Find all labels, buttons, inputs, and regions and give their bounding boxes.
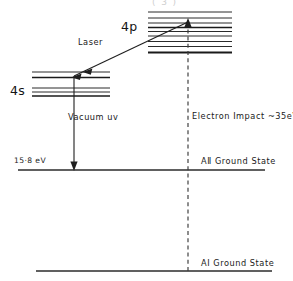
level-group-4p xyxy=(148,12,232,53)
label-4s: 4s xyxy=(10,83,25,98)
label-vacuum-uv: Vacuum uv xyxy=(68,112,118,122)
energy-level-diagram: ( 3 ) xyxy=(0,0,293,281)
label-4p: 4p xyxy=(121,19,138,34)
label-electron-impact: Electron Impact ~35eV xyxy=(192,111,293,121)
diagram-canvas: ( 3 ) xyxy=(0,0,293,281)
top-cut-caption: ( 3 ) xyxy=(152,0,177,7)
level-group-4s xyxy=(32,72,110,96)
label-ionization-energy: 15·8 eV xyxy=(14,156,46,165)
label-aii-ground-state: AⅡ Ground State xyxy=(201,156,276,166)
label-ai-ground-state: AⅠ Ground State xyxy=(201,258,274,268)
label-laser: Laser xyxy=(78,37,103,47)
